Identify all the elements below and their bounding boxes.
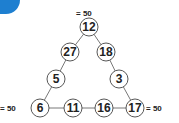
svg-text:17: 17: [128, 101, 142, 115]
node-left-mid: 5: [47, 70, 65, 88]
node-right-upper: 18: [97, 43, 115, 61]
node-top: 12: [80, 18, 98, 36]
node-bottom-left: 6: [31, 99, 49, 117]
top-sum-label: = 50: [76, 9, 92, 18]
svg-text:16: 16: [97, 101, 111, 115]
svg-text:27: 27: [63, 45, 77, 59]
svg-text:12: 12: [82, 20, 96, 34]
svg-text:5: 5: [53, 72, 60, 86]
node-left-upper: 27: [61, 43, 79, 61]
svg-text:11: 11: [67, 101, 80, 115]
node-right-mid: 3: [110, 70, 128, 88]
svg-text:6: 6: [37, 101, 44, 115]
node-bottom-right: 17: [126, 99, 144, 117]
left-sum-label: = 50: [0, 104, 16, 113]
svg-text:3: 3: [116, 72, 123, 86]
node-bottom-3: 16: [95, 99, 113, 117]
number-nodes: 122718536111617: [31, 18, 144, 117]
right-sum-label: = 50: [146, 104, 162, 113]
svg-text:18: 18: [99, 45, 113, 59]
node-bottom-2: 11: [64, 99, 82, 117]
